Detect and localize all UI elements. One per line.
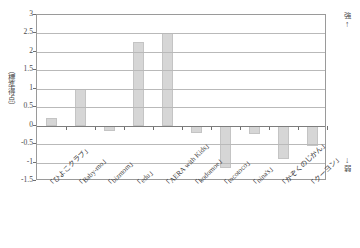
x-axis-label: 「edu」	[134, 167, 157, 190]
bar-chart: （標準得点） 32.521.510.50-0.5-1-1.5 「ひよこクラブ」「…	[0, 0, 360, 248]
x-axis-label: 「bizmom」	[105, 157, 137, 189]
strength-annotation-bottom: ↓ 弱	[338, 156, 356, 173]
x-axis-label: 「AERA with Kids」	[163, 139, 213, 189]
strength-label-weak: 弱	[338, 165, 356, 173]
arrow-up-icon: ↑	[338, 20, 356, 29]
x-axis-labels: 「ひよこクラブ」「Baby-mo」「bizmom」「edu」「AERA with…	[0, 0, 360, 248]
strength-annotation-top: 強 ↑	[338, 12, 356, 29]
x-axis-label: 「nina's」	[250, 162, 277, 189]
